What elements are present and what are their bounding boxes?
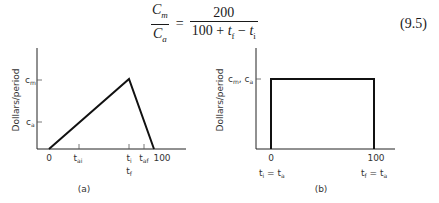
fig-a-label-ca: ca [26, 117, 35, 128]
fig-a-xlabel-tai: tai [74, 153, 83, 164]
fig-b-ylabel: Dollars/period [215, 68, 225, 131]
fig-a-xaxis-title: tf [126, 166, 133, 177]
fig-a-cost-line [49, 79, 154, 149]
fig-b-annotation-right: tf = ta [361, 168, 387, 179]
figures: Dollars/period cm ca 0 tai ti taf 100 tf… [0, 0, 439, 203]
fig-b-xlabel-0: 0 [268, 153, 274, 163]
fig-b-caption: (b) [315, 184, 328, 194]
fig-b-annotation-left: ti = ta [259, 168, 285, 179]
fig-a-xlabel-ti: ti [126, 153, 132, 164]
fig-a-ylabel: Dollars/period [11, 68, 21, 131]
fig-b-cost-line [271, 79, 374, 149]
fig-a-label-cm: cm [25, 75, 36, 86]
fig-b-label-cm-ca: cm, ca [228, 74, 253, 85]
fig-a-xlabel-taf: taf [139, 153, 149, 164]
figure-b: Dollars/period cm, ca 0 100 ti = ta tf =… [215, 48, 395, 194]
figure-a: Dollars/period cm ca 0 tai ti taf 100 tf… [11, 48, 186, 194]
fig-a-caption: (a) [78, 184, 91, 194]
fig-a-xlabel-0: 0 [46, 153, 52, 163]
fig-a-xlabel-100: 100 [153, 153, 170, 163]
fig-b-xlabel-100: 100 [367, 153, 384, 163]
